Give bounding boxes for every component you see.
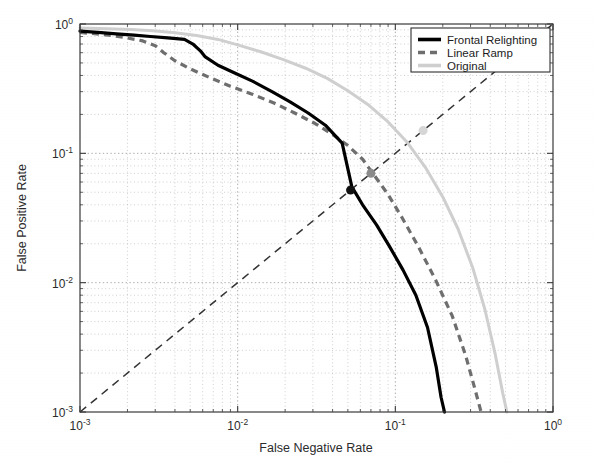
y-tick-labels: 100 10-1 10-2 10-3 (52, 16, 73, 420)
legend: Frontal Relighting Linear Ramp Original (411, 28, 550, 72)
x-tick-1-mantissa: 10 (227, 419, 241, 433)
y-tick-1-mantissa: 10 (52, 147, 66, 161)
roc-det-figure: 10-3 10-2 10-1 100 100 10-1 10-2 (0, 0, 596, 465)
legend-label-linear-ramp: Linear Ramp (447, 47, 513, 59)
y-tick-2-mantissa: 10 (52, 277, 66, 291)
original-eer-marker (419, 126, 428, 135)
x-tick-2-exponent: -1 (398, 417, 406, 427)
x-axis-title: False Negative Rate (259, 441, 372, 455)
x-tick-2-mantissa: 10 (385, 419, 399, 433)
y-tick-0-exponent: 0 (68, 16, 73, 26)
y-tick-2-exponent: -2 (65, 275, 73, 285)
svg-text:100: 100 (55, 16, 73, 32)
linear-ramp-eer-marker (366, 169, 375, 178)
svg-text:100: 100 (544, 417, 562, 433)
x-tick-0-mantissa: 10 (70, 419, 84, 433)
x-tick-0-exponent: -3 (83, 417, 91, 427)
frontal-relighting-eer-marker (346, 186, 355, 195)
x-tick-3-exponent: 0 (557, 417, 562, 427)
svg-text:10-1: 10-1 (52, 145, 73, 161)
y-tick-1-exponent: -1 (65, 145, 73, 155)
svg-text:10-1: 10-1 (385, 417, 406, 433)
x-tick-3-mantissa: 10 (544, 419, 558, 433)
svg-text:10-2: 10-2 (227, 417, 248, 433)
x-tick-1-exponent: -2 (241, 417, 249, 427)
svg-text:10-3: 10-3 (70, 417, 91, 433)
x-tick-labels: 10-3 10-2 10-1 100 (70, 417, 563, 433)
legend-label-original: Original (447, 60, 487, 72)
det-curve-plot: 10-3 10-2 10-1 100 100 10-1 10-2 (0, 0, 596, 465)
y-tick-3-exponent: -3 (65, 404, 73, 414)
legend-label-frontal-relighting: Frontal Relighting (447, 34, 537, 46)
y-tick-0-mantissa: 10 (55, 18, 69, 32)
svg-text:10-2: 10-2 (52, 275, 73, 291)
svg-text:10-3: 10-3 (52, 404, 73, 420)
y-tick-3-mantissa: 10 (52, 406, 66, 420)
y-axis-title: False Positive Rate (15, 164, 29, 272)
